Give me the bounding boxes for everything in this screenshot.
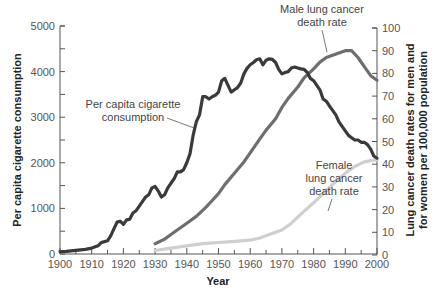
series-lines — [60, 51, 377, 252]
y-axis-right-title-line2: for women per 100,000 population — [417, 51, 429, 229]
y-tick-label-right: 100 — [382, 22, 400, 34]
y-tick-label-left: 1000 — [31, 202, 55, 214]
x-tick-label: 1910 — [79, 258, 103, 270]
series-male-death-rate — [155, 51, 377, 244]
x-tick-label: 1950 — [206, 258, 230, 270]
annotation-male-line1: Male lung cancer — [280, 3, 364, 15]
y-axis-right-title-line1: Lung cancer death rates for men and — [404, 43, 416, 236]
x-tick-label: 1930 — [143, 258, 167, 270]
y-tick-label-right: 10 — [382, 226, 394, 238]
x-tick-label: 1920 — [111, 258, 135, 270]
y-tick-label-left: 2000 — [31, 157, 55, 169]
x-tick-label: 1970 — [270, 258, 294, 270]
x-tick-label: 1980 — [301, 258, 325, 270]
y-tick-label-right: 30 — [382, 181, 394, 193]
x-axis-title: Year — [206, 275, 230, 287]
y-tick-label-right: 90 — [382, 45, 394, 57]
annotation-male-leader — [322, 30, 327, 52]
x-tick-label: 1960 — [238, 258, 262, 270]
y-axis-left-title: Per capita cigarette consumption — [11, 53, 23, 227]
y-tick-label-right: 60 — [382, 113, 394, 125]
axes: 0100020003000400050001900191019201930194… — [31, 20, 401, 270]
series-cigarette-consumption — [60, 59, 377, 252]
annotation-cigarette-leader — [167, 118, 194, 128]
annotation-female-line1: Female — [316, 159, 353, 171]
y-tick-label-right: 70 — [382, 90, 394, 102]
x-tick-label: 1900 — [48, 258, 72, 270]
chart: 0100020003000400050001900191019201930194… — [0, 0, 443, 299]
annotation-female-line3: death rate — [309, 185, 359, 197]
y-tick-label-right: 80 — [382, 67, 394, 79]
y-tick-label-right: 20 — [382, 204, 394, 216]
y-tick-label-left: 4000 — [31, 66, 55, 78]
y-tick-label-right: 0 — [382, 249, 388, 261]
annotation-male-line2: death rate — [297, 16, 347, 28]
annotation-female-leader — [328, 199, 332, 211]
y-tick-label-left: 5000 — [31, 20, 55, 32]
y-tick-label-left: 3000 — [31, 111, 55, 123]
x-tick-label: 1940 — [175, 258, 199, 270]
x-tick-label: 1990 — [333, 258, 357, 270]
annotation-cigarette-line1: Per capita cigarette — [86, 98, 181, 110]
y-tick-label-right: 50 — [382, 136, 394, 148]
annotation-female-line2: lung cancer — [306, 172, 363, 184]
annotation-cigarette-line2: consumption — [102, 111, 164, 123]
y-tick-label-right: 40 — [382, 158, 394, 170]
